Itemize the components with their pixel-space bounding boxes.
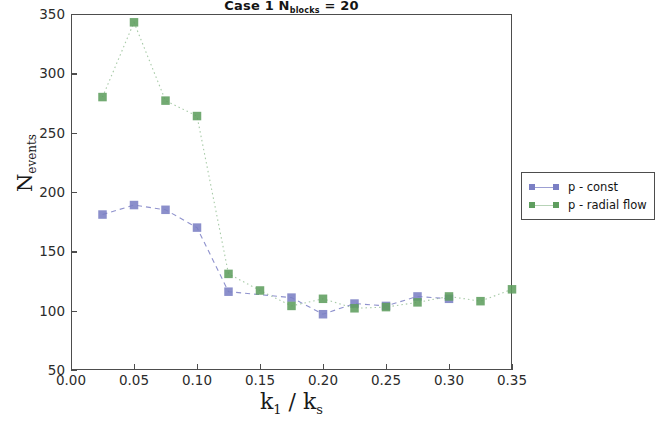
data-point-marker — [161, 206, 170, 215]
x-tick-label: 0.00 — [36, 372, 106, 388]
y-tick-label: 350 — [9, 6, 71, 22]
legend-marker-icon — [553, 202, 559, 208]
series-p-const — [98, 201, 453, 319]
x-tick-mark — [449, 364, 450, 370]
data-point-marker — [256, 286, 265, 295]
legend-label: p - const — [568, 180, 618, 194]
x-axis-label: k1 / ks — [71, 389, 512, 417]
legend-line-icon — [535, 187, 553, 188]
series-p-radial-flow — [98, 18, 516, 312]
y-axis-label-subscript: events — [25, 134, 39, 174]
chart-title: Case 1 Nblocks = 20 — [71, 0, 512, 15]
x-tick-mark — [512, 364, 513, 370]
x-tick-mark — [323, 364, 324, 370]
data-point-marker — [287, 302, 296, 311]
series-line — [103, 22, 513, 308]
data-point-marker — [508, 285, 517, 294]
x-tick-label: 0.35 — [477, 372, 547, 388]
x-axis-label-separator: / k — [282, 389, 317, 414]
x-axis-label-denominator-subscript: s — [316, 402, 323, 417]
data-point-marker — [319, 310, 328, 319]
data-point-marker — [350, 304, 359, 313]
data-point-marker — [445, 292, 454, 301]
data-point-marker — [224, 287, 233, 296]
data-point-marker — [382, 303, 391, 312]
x-tick-mark — [386, 364, 387, 370]
y-tick-mark — [71, 311, 77, 312]
data-point-marker — [161, 96, 170, 105]
legend-line-icon — [535, 205, 553, 206]
y-tick-label: 100 — [9, 303, 71, 319]
data-point-marker — [224, 270, 233, 279]
x-tick-label: 0.25 — [351, 372, 421, 388]
data-point-marker — [287, 293, 296, 302]
x-axis-label-numerator-subscript: 1 — [273, 402, 281, 417]
x-axis-label-numerator: k — [260, 389, 273, 414]
x-tick-label: 0.05 — [99, 372, 169, 388]
chart-title-main: Case 1 N — [224, 0, 289, 13]
x-tick-mark — [260, 364, 261, 370]
x-tick-label: 0.10 — [162, 372, 232, 388]
data-point-marker — [319, 295, 328, 304]
x-tick-mark — [134, 364, 135, 370]
data-point-marker — [130, 18, 139, 27]
x-tick-mark — [197, 364, 198, 370]
y-tick-label: 300 — [9, 65, 71, 81]
legend-label: p - radial flow — [568, 198, 647, 212]
chart-title-tail: = 20 — [320, 0, 359, 13]
x-tick-label: 0.30 — [414, 372, 484, 388]
y-axis-label-main: N — [13, 174, 37, 192]
data-point-marker — [413, 298, 422, 307]
y-tick-mark — [71, 14, 77, 15]
y-tick-mark — [71, 192, 77, 193]
plot-canvas — [71, 14, 512, 370]
y-tick-label: 150 — [9, 243, 71, 259]
legend-swatch — [527, 199, 563, 211]
data-point-marker — [130, 201, 139, 210]
x-tick-mark — [71, 364, 72, 370]
legend-item: p - radial flow — [527, 196, 647, 214]
x-tick-label: 0.15 — [225, 372, 295, 388]
x-tick-label: 0.20 — [288, 372, 358, 388]
y-axis-label: Nevents — [13, 93, 39, 233]
data-point-marker — [193, 223, 202, 232]
data-point-marker — [193, 112, 202, 121]
data-point-marker — [98, 210, 107, 219]
legend-marker-icon — [553, 184, 559, 190]
data-point-marker — [98, 93, 107, 102]
legend-swatch — [527, 181, 563, 193]
legend-item: p - const — [527, 178, 647, 196]
y-tick-mark — [71, 73, 77, 74]
data-point-marker — [476, 297, 485, 306]
chart-legend: p - constp - radial flow — [521, 172, 655, 220]
y-tick-mark — [71, 251, 77, 252]
y-tick-mark — [71, 133, 77, 134]
